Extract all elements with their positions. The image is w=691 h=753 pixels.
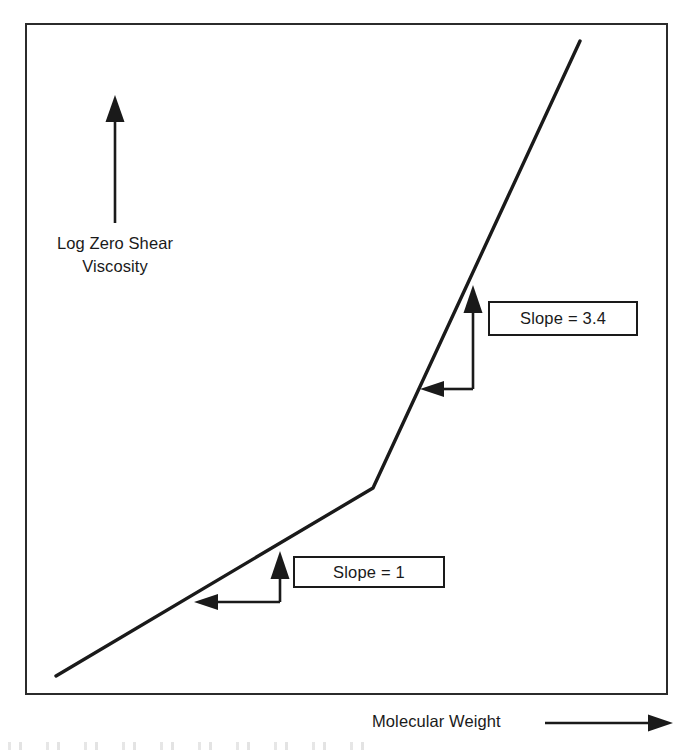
slope-high-callout: Slope = 3.4 bbox=[488, 301, 638, 336]
figure-container: Log Zero Shear Viscosity Molecular Weigh… bbox=[0, 0, 691, 753]
plot-frame bbox=[25, 23, 668, 695]
x-axis-label: Molecular Weight bbox=[372, 711, 501, 731]
x-axis-arrow bbox=[545, 715, 673, 732]
y-axis-label: Log Zero Shear Viscosity bbox=[26, 232, 204, 278]
slope-low-callout: Slope = 1 bbox=[293, 556, 445, 588]
scan-artifact-strip bbox=[8, 742, 388, 750]
